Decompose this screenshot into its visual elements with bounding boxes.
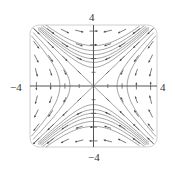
direction-arrow <box>78 98 81 101</box>
arrow-head <box>50 74 52 76</box>
arrow-head <box>135 74 137 76</box>
arrow-head <box>81 31 83 33</box>
arrow-head <box>89 140 91 142</box>
arrow-head <box>135 83 137 85</box>
arrow-head <box>104 31 106 33</box>
arrow-head <box>50 88 52 90</box>
x-min-label: −4 <box>10 82 22 93</box>
arrow-head <box>135 96 137 98</box>
arrow-head <box>150 82 152 84</box>
direction-arrow <box>106 98 109 101</box>
y-max-label: 4 <box>89 12 95 23</box>
arrow-head <box>75 140 77 142</box>
arrow-head <box>104 139 106 141</box>
x-max-label: 4 <box>160 82 166 93</box>
direction-arrow <box>78 71 81 74</box>
direction-arrow <box>106 71 109 74</box>
direction-field-plot <box>0 0 175 169</box>
arrow-head <box>96 30 98 32</box>
arrow-head <box>35 88 37 90</box>
y-min-label: −4 <box>88 152 100 163</box>
